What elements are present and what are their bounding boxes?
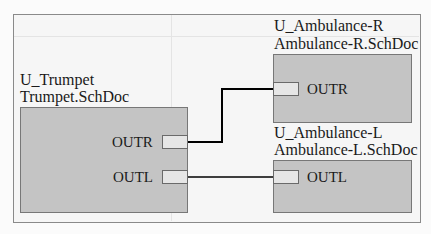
wire-outr xyxy=(188,89,273,142)
wires xyxy=(0,0,431,234)
